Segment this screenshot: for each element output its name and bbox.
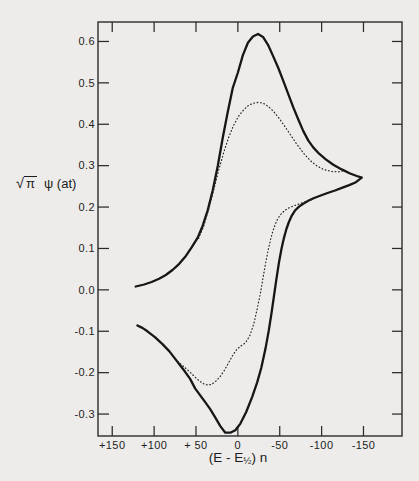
- y-tick-label: 0.4: [79, 118, 96, 130]
- pi-symbol: π: [24, 176, 37, 190]
- y-tick-label: 0.6: [79, 35, 96, 47]
- y-tick-label: -0.1: [74, 325, 95, 337]
- series-dotted-2: [176, 200, 312, 386]
- series-solid-0: [136, 34, 362, 433]
- voltammogram-plot: +150+100+ 500-50-100-1500.60.50.40.30.20…: [0, 0, 419, 481]
- sqrt-radical: √: [16, 175, 24, 191]
- y-tick-label: 0.1: [79, 242, 96, 254]
- y-tick-label: -0.2: [74, 366, 95, 378]
- x-title-post: ) n: [251, 450, 267, 465]
- psi-at-label: ψ (at): [44, 176, 76, 191]
- y-tick-label: 0.0: [79, 284, 96, 296]
- series-dotted-1: [199, 102, 345, 238]
- y-tick-label: 0.5: [79, 77, 96, 89]
- y-tick-label: -0.3: [74, 408, 95, 420]
- figure: +150+100+ 500-50-100-1500.60.50.40.30.20…: [0, 0, 419, 481]
- y-tick-label: 0.3: [79, 159, 96, 171]
- x-axis-title: (E - E½) n: [98, 450, 378, 466]
- y-tick-label: 0.2: [79, 201, 96, 213]
- plot-frame: [98, 22, 402, 436]
- y-axis-title: √πψ (at): [16, 175, 76, 191]
- x-title-pre: (E - E: [209, 450, 244, 465]
